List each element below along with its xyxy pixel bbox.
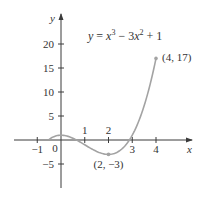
y-tick-label: −5 [42,158,54,170]
x-tick-label: −1 [31,143,43,155]
equation-label: y = x3 − 3x2 + 1 [87,28,162,43]
x-tick-label: 1 [82,124,88,136]
y-tick-label: 10 [43,86,55,98]
x-tick-label: 2 [106,124,112,136]
x-axis-label: x [186,143,192,155]
y-axis-label: y [49,12,55,24]
labels: −112340−55101520yx(2, −3)(4, 17)y = x3 −… [31,12,192,171]
origin-label: 0 [52,142,58,154]
point-marker [107,153,111,157]
point-label-min: (2, −3) [93,158,123,171]
point-marker [154,57,158,61]
y-tick-label: 15 [43,62,55,74]
plot-area: −112340−55101520yx(2, −3)(4, 17)y = x3 −… [0,0,203,202]
y-tick-label: 20 [43,38,55,50]
x-tick-label: 4 [153,143,159,155]
x-tick-label: 3 [130,143,136,155]
point-label-end: (4, 17) [162,51,192,64]
function-graph: −112340−55101520yx(2, −3)(4, 17)y = x3 −… [0,0,203,202]
y-tick-label: 5 [49,110,55,122]
